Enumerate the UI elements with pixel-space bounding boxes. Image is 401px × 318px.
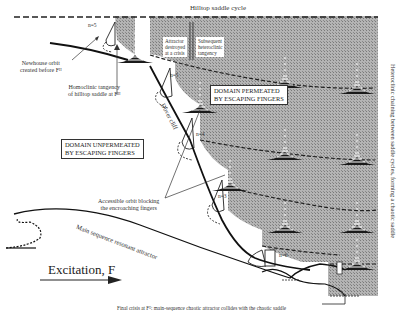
domain-permeated-box: DOMAIN PERMEATED BY ESCAPING FINGERS [210, 85, 288, 105]
n-label-5: n=5 [170, 72, 179, 78]
n-label-4: n=4 [196, 131, 205, 137]
hilltop-saddle-label: Hilltop saddle cycle [190, 5, 246, 12]
final-crisis-label: Final crisis at Fᴱ: main-sequence chaoti… [117, 305, 286, 312]
subsequent-tangency-label: Subsequent heteroclinic tangency [196, 37, 224, 57]
domain-unpermeated-box: DOMAIN UNPERMEATED BY ESCAPING FINGERS [61, 139, 144, 159]
n-label-3: n=3 [218, 193, 227, 199]
heteroclinic-chaining-label: Heteroclinic chaining between saddle cyc… [390, 64, 397, 238]
excitation-label: Excitation, F [48, 262, 115, 278]
newhouse-orbit-label: Newhouse orbit created before Fᴴ [20, 60, 62, 74]
n-label-top: n=5 [88, 22, 97, 28]
attractor-destroyed-label: Attractor destroyed at a crisis [163, 37, 187, 57]
homoclinic-tangency-label: Homoclinic tangency of hilltop saddle at… [68, 84, 120, 98]
accessible-orbit-label: Accessible orbit blocking the encroachin… [98, 198, 159, 212]
n-label-6: n=6 [279, 252, 288, 258]
